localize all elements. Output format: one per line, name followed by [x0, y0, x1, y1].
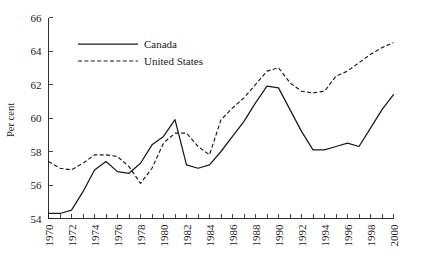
- y-tick-label: 62: [31, 79, 42, 91]
- x-tick-label: 1988: [250, 224, 262, 247]
- y-tick-label: 58: [31, 146, 43, 158]
- y-tick-label: 60: [31, 112, 43, 124]
- legend-label-united-states: United States: [144, 55, 203, 67]
- x-tick-label: 1994: [319, 224, 331, 247]
- x-tick-label: 1978: [135, 224, 147, 247]
- chart-canvas: 54565860626466 1970197219741976197819801…: [0, 0, 423, 259]
- x-tick-label: 2000: [388, 224, 400, 247]
- legend-label-canada: Canada: [144, 38, 177, 50]
- series-line-united-states: [49, 43, 394, 184]
- y-tick-label: 54: [31, 213, 43, 225]
- x-tick-label: 1984: [204, 224, 216, 247]
- x-tick-label: 1998: [365, 224, 377, 247]
- x-tick-label: 1986: [227, 224, 239, 247]
- y-tick-label: 64: [31, 45, 43, 57]
- y-tick-label: 56: [31, 179, 43, 191]
- x-tick-label: 1972: [66, 225, 78, 247]
- x-axis: 1970197219741976197819801982198419861988…: [43, 214, 400, 247]
- x-tick-label: 1992: [296, 225, 308, 247]
- x-tick-label: 1982: [181, 225, 193, 247]
- x-tick-label: 1990: [273, 224, 285, 247]
- x-tick-label: 1980: [158, 224, 170, 247]
- x-tick-label: 1996: [342, 224, 354, 247]
- y-axis: 54565860626466: [31, 12, 53, 225]
- x-tick-label: 1970: [43, 224, 55, 247]
- y-tick-label: 66: [31, 12, 43, 24]
- x-tick-label: 1974: [89, 224, 101, 247]
- y-axis-title: Per cent: [5, 103, 16, 137]
- x-tick-label: 1976: [112, 224, 124, 247]
- data-series-group: [49, 43, 394, 214]
- chart-legend: CanadaUnited States: [78, 38, 203, 67]
- series-line-canada: [49, 86, 394, 213]
- line-chart: 54565860626466 1970197219741976197819801…: [0, 0, 423, 259]
